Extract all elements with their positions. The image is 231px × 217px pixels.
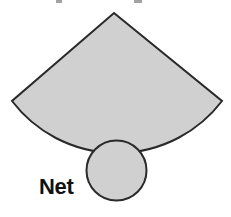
- base-circle: [87, 141, 147, 201]
- net-shapes: [0, 0, 231, 217]
- cropped-text-fragment: [56, 0, 62, 3]
- lateral-surface-sector: [12, 13, 222, 153]
- net-label: Net: [39, 176, 74, 198]
- cropped-text-fragment: [134, 0, 142, 3]
- cone-net-diagram: Net: [0, 0, 231, 217]
